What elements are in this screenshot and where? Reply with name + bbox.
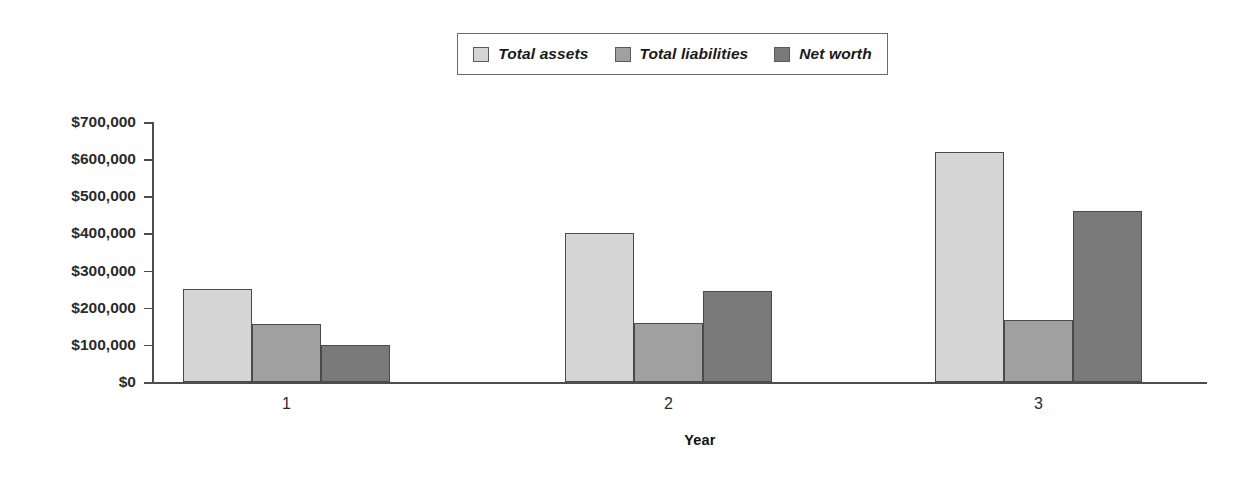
x-tick-label-1: 1 [227,395,347,413]
x-tick-label-3: 3 [979,395,1099,413]
x-tick-label-2: 2 [609,395,729,413]
bar-2-total-liabilities [634,323,703,382]
x-axis-title: Year [600,432,800,448]
y-tick-mark [144,233,153,235]
bar-2-total-assets [565,233,634,382]
y-tick-label: $600,000 [36,150,136,168]
y-tick-mark [144,308,153,310]
y-tick-label: $100,000 [36,336,136,354]
y-tick-label: $500,000 [36,187,136,205]
bar-1-total-assets [183,289,252,382]
plot-area: $0$100,000$200,000$300,000$400,000$500,0… [0,0,1251,484]
y-tick-mark [144,382,153,384]
y-tick-label: $0 [36,373,136,391]
bar-3-total-assets [935,152,1004,382]
chart-page: Total assetsTotal liabilitiesNet worth $… [0,0,1251,484]
bar-2-net-worth [703,291,772,382]
y-tick-mark [144,159,153,161]
y-tick-mark [144,345,153,347]
y-tick-label: $200,000 [36,299,136,317]
y-tick-mark [144,271,153,273]
y-tick-mark [144,196,153,198]
x-axis-line [152,382,1207,384]
bar-1-net-worth [321,345,390,382]
y-tick-label: $300,000 [36,262,136,280]
bar-3-net-worth [1073,211,1142,382]
bar-1-total-liabilities [252,324,321,382]
y-tick-mark [144,122,153,124]
y-axis-line [152,122,154,383]
bar-3-total-liabilities [1004,320,1073,382]
y-tick-label: $400,000 [36,224,136,242]
y-tick-label: $700,000 [36,113,136,131]
